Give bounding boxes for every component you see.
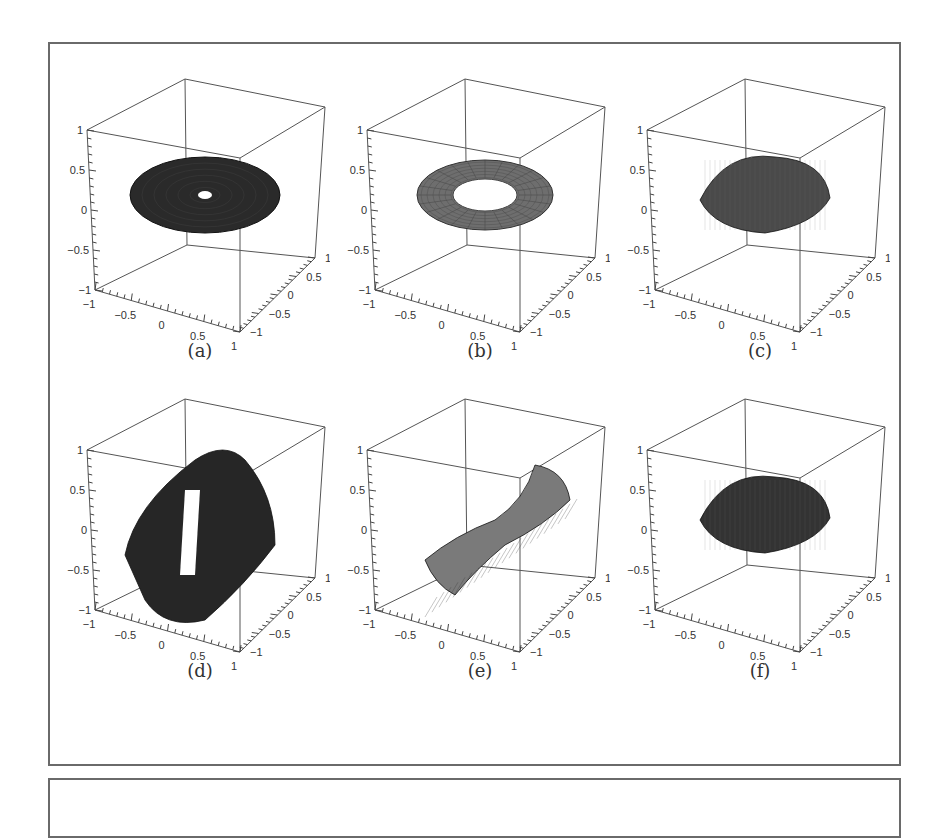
y-tick-label: −0.5 xyxy=(269,628,291,640)
z-tick-label: −1 xyxy=(78,284,91,296)
x-tick-label: −0.5 xyxy=(674,629,696,641)
x-tick-label: −1 xyxy=(83,298,96,310)
z-tick-label: 0.5 xyxy=(70,484,85,496)
z-tick-label: −0.5 xyxy=(627,244,649,256)
x-tick-label: −0.5 xyxy=(394,629,416,641)
z-tick-label: −0.5 xyxy=(347,564,369,576)
surface-twisted-band-with-slit xyxy=(125,450,275,623)
z-tick-label: 0 xyxy=(81,204,87,216)
x-tick-label: −1 xyxy=(643,618,656,630)
z-tick-label: −0.5 xyxy=(67,244,89,256)
x-tick-label: −0.5 xyxy=(114,629,136,641)
x-tick-label: 0 xyxy=(438,319,444,331)
y-tick-label: 1 xyxy=(885,252,890,264)
surface-ellipsoid-lens xyxy=(700,476,830,553)
plot3d-c: 10.50−0.5−1−1−0.500.5110.50−0.5−1 xyxy=(600,40,890,370)
panel-caption: (c) xyxy=(730,340,790,361)
y-tick-label: −0.5 xyxy=(549,628,571,640)
z-tick-label: 1 xyxy=(77,124,83,136)
x-tick-label: 1 xyxy=(511,340,517,352)
x-tick-label: −0.5 xyxy=(674,309,696,321)
x-tick-label: 0 xyxy=(438,639,444,651)
plot3d-b: 10.50−0.5−1−1−0.500.5110.50−0.5−1 xyxy=(320,40,610,370)
y-tick-label: 0 xyxy=(288,609,294,621)
panel-f: 10.50−0.5−1−1−0.500.5110.50−0.5−1(f) xyxy=(600,360,890,690)
surface-ellipsoid-lens xyxy=(700,156,830,233)
surface-annulus-ring xyxy=(417,160,553,230)
plot3d-a: 10.50−0.5−1−1−0.500.5110.50−0.5−1 xyxy=(40,40,330,370)
y-tick-label: 0.5 xyxy=(866,591,881,603)
x-tick-label: 0 xyxy=(718,319,724,331)
y-tick-label: −1 xyxy=(810,646,823,658)
x-tick-label: −1 xyxy=(83,618,96,630)
z-tick-label: −0.5 xyxy=(347,244,369,256)
z-tick-label: 0.5 xyxy=(630,484,645,496)
z-tick-label: −1 xyxy=(358,604,371,616)
y-tick-label: −1 xyxy=(250,646,263,658)
z-tick-label: 1 xyxy=(637,444,643,456)
x-tick-label: 1 xyxy=(791,340,797,352)
y-tick-label: 0 xyxy=(568,289,574,301)
y-tick-label: 1 xyxy=(885,572,890,584)
z-tick-label: −0.5 xyxy=(627,564,649,576)
panel-a: 10.50−0.5−1−1−0.500.5110.50−0.5−1(a) xyxy=(40,40,330,370)
z-tick-label: 1 xyxy=(637,124,643,136)
panel-e: 10.50−0.5−1−1−0.500.5110.50−0.5−1(e) xyxy=(320,360,610,690)
z-tick-label: −1 xyxy=(638,284,651,296)
y-tick-label: −0.5 xyxy=(829,308,851,320)
plot3d-f: 10.50−0.5−1−1−0.500.5110.50−0.5−1 xyxy=(600,360,890,690)
plot3d-e: 10.50−0.5−1−1−0.500.5110.50−0.5−1 xyxy=(320,360,610,690)
y-tick-label: 0 xyxy=(568,609,574,621)
x-tick-label: 1 xyxy=(231,340,237,352)
z-tick-label: 0.5 xyxy=(630,164,645,176)
x-tick-label: −0.5 xyxy=(114,309,136,321)
z-tick-label: 1 xyxy=(357,444,363,456)
z-tick-label: 0.5 xyxy=(70,164,85,176)
y-tick-label: −1 xyxy=(250,326,263,338)
z-tick-label: 0 xyxy=(361,524,367,536)
surface-twisted-ribbon xyxy=(425,465,577,617)
z-tick-label: 0 xyxy=(641,204,647,216)
z-tick-label: −0.5 xyxy=(67,564,89,576)
y-tick-label: −0.5 xyxy=(269,308,291,320)
x-tick-label: −1 xyxy=(363,618,376,630)
z-tick-label: 0.5 xyxy=(350,484,365,496)
x-tick-label: −1 xyxy=(643,298,656,310)
plot3d-d: 10.50−0.5−1−1−0.500.5110.50−0.5−1 xyxy=(40,360,330,690)
panel-caption: (d) xyxy=(170,660,230,681)
y-tick-label: 0 xyxy=(848,289,854,301)
x-tick-label: −0.5 xyxy=(394,309,416,321)
y-tick-label: −0.5 xyxy=(829,628,851,640)
x-tick-label: 1 xyxy=(791,660,797,672)
z-tick-label: 0 xyxy=(81,524,87,536)
x-tick-label: 1 xyxy=(511,660,517,672)
z-tick-label: 1 xyxy=(357,124,363,136)
x-tick-label: −1 xyxy=(363,298,376,310)
y-tick-label: 0 xyxy=(848,609,854,621)
y-tick-label: −1 xyxy=(530,326,543,338)
z-tick-label: 0 xyxy=(641,524,647,536)
surface-disk-with-small-hole xyxy=(130,157,280,233)
y-tick-label: −1 xyxy=(530,646,543,658)
panel-caption: (f) xyxy=(730,660,790,681)
panel-d: 10.50−0.5−1−1−0.500.5110.50−0.5−1(d) xyxy=(40,360,330,690)
next-figure-frame xyxy=(48,778,901,838)
x-tick-label: 0 xyxy=(158,319,164,331)
panel-c: 10.50−0.5−1−1−0.500.5110.50−0.5−1(c) xyxy=(600,40,890,370)
z-tick-label: 0 xyxy=(361,204,367,216)
x-tick-label: 0 xyxy=(718,639,724,651)
x-tick-label: 1 xyxy=(231,660,237,672)
z-tick-label: −1 xyxy=(78,604,91,616)
y-tick-label: 0.5 xyxy=(866,271,881,283)
z-tick-label: 1 xyxy=(77,444,83,456)
z-tick-label: −1 xyxy=(358,284,371,296)
panel-caption: (e) xyxy=(450,660,510,681)
z-tick-label: −1 xyxy=(638,604,651,616)
y-tick-label: 0 xyxy=(288,289,294,301)
y-tick-label: −1 xyxy=(810,326,823,338)
y-tick-label: −0.5 xyxy=(549,308,571,320)
z-tick-label: 0.5 xyxy=(350,164,365,176)
panel-caption: (b) xyxy=(450,340,510,361)
panel-b: 10.50−0.5−1−1−0.500.5110.50−0.5−1(b) xyxy=(320,40,610,370)
x-tick-label: 0 xyxy=(158,639,164,651)
